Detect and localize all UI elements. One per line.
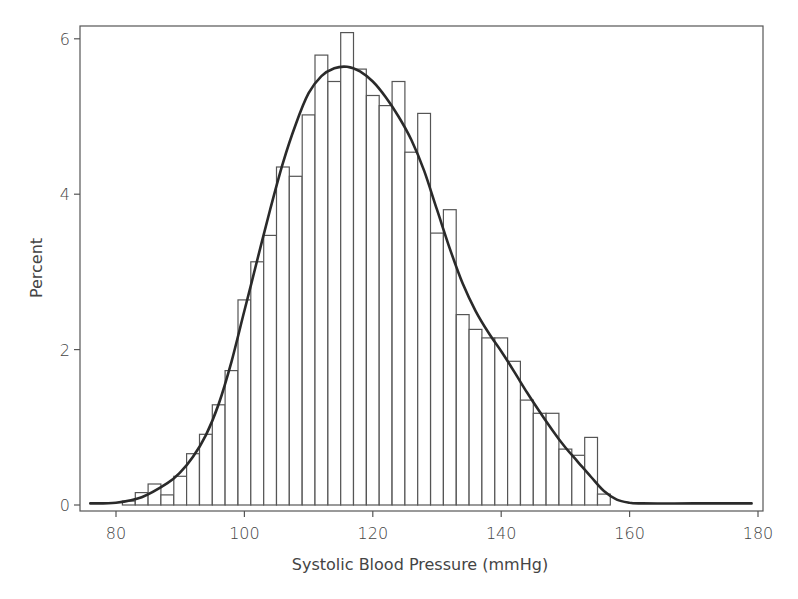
histogram-bar (264, 235, 277, 505)
histogram-bar (508, 361, 521, 505)
histogram-bar (482, 338, 495, 505)
histogram-bar (174, 476, 187, 505)
y-axis-label: Percent (27, 238, 46, 298)
x-tick-label: 180 (743, 524, 774, 543)
histogram-bar (495, 338, 508, 505)
histogram-bar (302, 115, 315, 505)
histogram-bar (251, 262, 264, 505)
histogram-bar (212, 405, 225, 505)
histogram-chart: 80100120140160180 0246 Systolic Blood Pr… (0, 0, 798, 599)
histogram-bar (405, 152, 418, 505)
histogram-bar (392, 82, 405, 506)
histogram-bar (341, 33, 354, 505)
histogram-bar (469, 329, 482, 505)
histogram-bar (328, 82, 341, 506)
x-axis-ticks: 80100120140160180 (106, 511, 773, 543)
histogram-bar (225, 371, 238, 505)
histogram-bars (122, 33, 610, 505)
histogram-bar (546, 413, 559, 505)
histogram-bar (443, 210, 456, 505)
histogram-bar (533, 413, 546, 505)
histogram-bar (366, 96, 379, 506)
histogram-bar (431, 233, 444, 505)
y-tick-label: 0 (60, 496, 70, 515)
histogram-bar (521, 400, 534, 505)
chart-canvas: 80100120140160180 0246 Systolic Blood Pr… (0, 0, 798, 599)
x-tick-label: 80 (106, 524, 126, 543)
y-tick-label: 2 (60, 341, 70, 360)
histogram-bar (161, 495, 174, 505)
y-tick-label: 6 (60, 30, 70, 49)
y-axis-ticks: 0246 (60, 30, 80, 515)
histogram-bar (315, 55, 328, 505)
x-tick-label: 140 (486, 524, 517, 543)
x-tick-label: 120 (358, 524, 389, 543)
x-tick-label: 160 (614, 524, 645, 543)
histogram-bar (277, 167, 290, 505)
histogram-bar (559, 449, 572, 505)
histogram-bar (354, 69, 367, 505)
histogram-bar (456, 315, 469, 505)
y-tick-label: 4 (60, 185, 70, 204)
x-tick-label: 100 (229, 524, 260, 543)
histogram-bar (379, 106, 392, 505)
histogram-bar (289, 176, 302, 505)
x-axis-label: Systolic Blood Pressure (mmHg) (292, 555, 548, 574)
